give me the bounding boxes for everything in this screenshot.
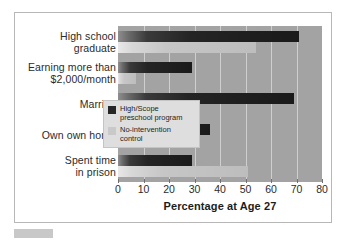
category-label: High schoolgraduate (4, 30, 116, 54)
x-tick-label: 50 (240, 183, 252, 195)
x-tick-label: 80 (316, 183, 328, 195)
category-label-line: Spent time (4, 154, 116, 166)
x-axis-title: Percentage at Age 27 (118, 200, 322, 212)
bar (118, 155, 192, 166)
x-tick-label: 60 (265, 183, 277, 195)
category-label: Married (4, 98, 116, 110)
category-label-line: Married (4, 98, 116, 110)
gridline (297, 26, 298, 182)
corner-tab (14, 229, 53, 238)
x-tick-label: 0 (115, 183, 121, 195)
bar (118, 73, 136, 84)
legend-label-control: No-intervention control (120, 126, 195, 143)
category-label-line: $2,000/month (4, 73, 116, 85)
x-tick-label: 20 (163, 183, 175, 195)
category-label-line: High school (4, 30, 116, 42)
gridline (271, 26, 272, 182)
category-label: Spent timein prison (4, 154, 116, 178)
category-label-line: in prison (4, 166, 116, 178)
x-tick-label: 30 (189, 183, 201, 195)
x-tick-label: 40 (214, 183, 226, 195)
bar (118, 31, 299, 42)
x-axis-ticks: 01020304050607080 (118, 183, 322, 199)
x-tick-label: 10 (138, 183, 150, 195)
category-label: Earning more than$2,000/month (4, 61, 116, 85)
dark-swatch-icon (108, 106, 116, 114)
category-label-line: graduate (4, 42, 116, 54)
category-label-line: Earning more than (4, 61, 116, 73)
legend-item-program: High/Scope preschool program (108, 105, 195, 122)
bar (118, 166, 248, 177)
legend-label-program: High/Scope preschool program (120, 105, 183, 122)
light-swatch-icon (108, 127, 116, 135)
bar-chart-figure: High schoolgraduateEarning more than$2,0… (0, 0, 347, 241)
chart-legend: High/Scope preschool program No-interven… (103, 100, 200, 148)
legend-item-control: No-intervention control (108, 126, 195, 143)
category-label-line: Own own home (4, 129, 116, 141)
bar (118, 62, 192, 73)
category-label: Own own home (4, 129, 116, 141)
bar (118, 42, 256, 53)
x-tick-label: 70 (291, 183, 303, 195)
category-axis-labels: High schoolgraduateEarning more than$2,0… (2, 26, 116, 182)
